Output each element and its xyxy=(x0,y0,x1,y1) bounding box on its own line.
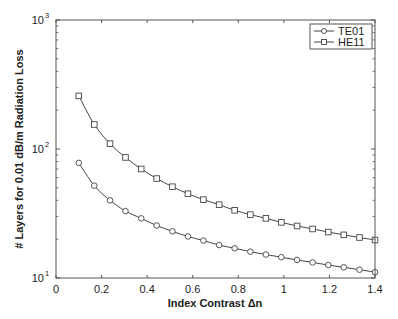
square-marker xyxy=(341,232,347,238)
y-tick-exponent: 1 xyxy=(45,269,49,278)
axes: 00.20.40.60.811.21.4101102103 xyxy=(32,11,383,295)
y-tick-label: 10 xyxy=(32,14,44,26)
circle-marker xyxy=(357,267,363,273)
series-line-te01 xyxy=(79,163,375,272)
square-marker xyxy=(310,226,316,232)
square-marker xyxy=(357,235,363,241)
x-tick-label: 1.2 xyxy=(322,283,337,295)
x-tick-label: 0 xyxy=(53,283,59,295)
y-tick-exponent: 2 xyxy=(45,140,49,149)
square-marker xyxy=(170,184,176,190)
circle-marker xyxy=(107,198,113,204)
legend: TE01HE11 xyxy=(310,24,372,49)
circle-marker xyxy=(185,234,191,240)
plot-frame xyxy=(56,20,375,278)
circle-marker xyxy=(263,252,269,258)
y-tick-label: 10 xyxy=(32,272,44,284)
circle-marker xyxy=(123,208,129,214)
y-tick-exponent: 3 xyxy=(45,11,49,20)
circle-marker xyxy=(310,260,316,266)
x-tick-label: 0.2 xyxy=(94,283,109,295)
square-marker xyxy=(91,122,97,128)
circle-marker xyxy=(138,216,144,222)
y-axis-label: # Layers for 0.01 dB/m Radiation Loss xyxy=(13,49,25,248)
square-marker xyxy=(201,197,207,203)
square-marker xyxy=(123,155,129,161)
square-marker xyxy=(185,191,191,197)
square-marker xyxy=(325,229,331,235)
square-marker xyxy=(248,212,254,218)
x-axis-label: Index Contrast Δn xyxy=(168,297,263,309)
circle-marker xyxy=(248,249,254,255)
square-marker xyxy=(154,176,160,182)
square-marker xyxy=(294,223,300,229)
data-series xyxy=(76,93,378,275)
circle-marker xyxy=(201,238,207,244)
circle-marker xyxy=(294,257,300,263)
x-tick-label: 0.4 xyxy=(139,283,154,295)
square-marker xyxy=(232,207,238,213)
square-marker xyxy=(216,202,222,208)
square-marker xyxy=(263,216,269,222)
circle-marker xyxy=(216,242,222,248)
circle-marker xyxy=(91,183,97,189)
legend-square-icon xyxy=(322,40,327,45)
square-marker xyxy=(138,166,144,172)
x-tick-label: 1.4 xyxy=(367,283,382,295)
legend-circle-icon xyxy=(322,29,327,34)
circle-marker xyxy=(170,229,176,235)
series-line-he11 xyxy=(79,96,375,240)
x-tick-label: 0.8 xyxy=(231,283,246,295)
legend-label: HE11 xyxy=(338,36,365,48)
x-tick-label: 0.6 xyxy=(185,283,200,295)
x-tick-label: 1 xyxy=(281,283,287,295)
chart-figure: 00.20.40.60.811.21.4101102103 TE01HE11 I… xyxy=(0,0,398,319)
circle-marker xyxy=(232,245,238,251)
circle-marker xyxy=(279,254,285,260)
square-marker xyxy=(107,141,113,147)
circle-marker xyxy=(341,265,347,271)
y-tick-label: 10 xyxy=(32,143,44,155)
circle-marker xyxy=(325,262,331,268)
circle-marker xyxy=(76,160,82,166)
circle-marker xyxy=(154,223,160,229)
square-marker xyxy=(279,220,285,226)
square-marker xyxy=(76,93,82,99)
